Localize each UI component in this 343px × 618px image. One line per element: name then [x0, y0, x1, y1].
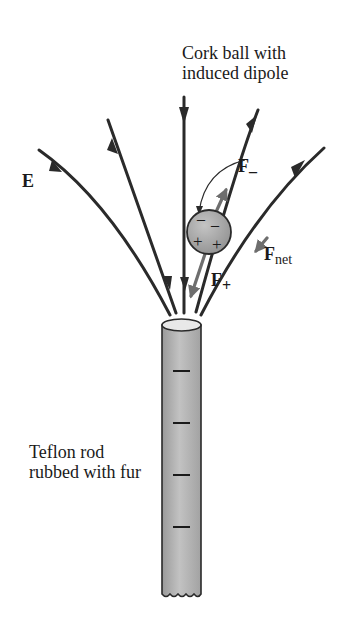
- arrowhead-3: [179, 107, 189, 124]
- ball-charge-pos-1: +: [193, 232, 203, 252]
- f-plus-subscript: +: [222, 277, 231, 294]
- f-plus-label: F+: [211, 270, 231, 296]
- electric-field-lines: [39, 97, 324, 315]
- arrowhead-4: [246, 115, 257, 133]
- charged-rod-dipole-diagram: – – + + Cork ball with induced dipole E …: [0, 0, 343, 618]
- f-minus-subscript: –: [249, 163, 257, 180]
- diagram-graphics: [0, 0, 343, 618]
- rod-label: Teflon rod rubbed with fur: [29, 442, 141, 482]
- cork-ball-label-line1: Cork ball with: [182, 43, 288, 63]
- ball-charge-pos-2: +: [212, 235, 222, 255]
- f-plus-symbol: F: [211, 270, 222, 290]
- teflon-rod: [162, 319, 201, 597]
- arrowhead-7: [180, 277, 189, 291]
- f-net-label: Fnet: [264, 244, 292, 270]
- field-line-2: [108, 120, 176, 313]
- field-label-e: E: [22, 171, 34, 191]
- f-minus-label: F–: [238, 156, 257, 182]
- rod-label-line1: Teflon rod: [29, 442, 141, 462]
- rod-label-line2: rubbed with fur: [29, 462, 141, 482]
- f-minus-symbol: F: [238, 156, 249, 176]
- cork-ball-label: Cork ball with induced dipole: [182, 43, 288, 83]
- ball-charge-neg-1: –: [197, 209, 205, 229]
- f-net-symbol: F: [264, 244, 275, 264]
- f-net-subscript: net: [275, 252, 292, 267]
- ball-charge-neg-2: –: [211, 215, 219, 235]
- cork-ball-label-line2: induced dipole: [182, 63, 288, 83]
- field-line-1: [39, 150, 170, 315]
